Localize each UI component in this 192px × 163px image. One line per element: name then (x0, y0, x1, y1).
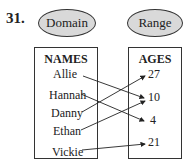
arrow-allie-10 (83, 76, 144, 98)
mapping-arrows (0, 0, 192, 163)
arrow-danny-27 (82, 76, 145, 112)
arrow-vickie-21 (82, 144, 145, 150)
arrow-ethan-10 (81, 101, 145, 130)
